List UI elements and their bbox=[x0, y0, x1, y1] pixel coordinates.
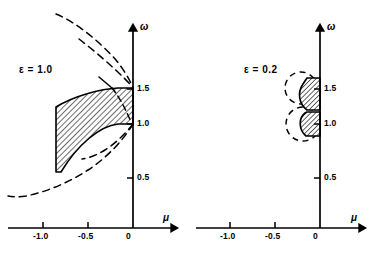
dashed-tick-crossing bbox=[99, 77, 112, 88]
x-tick-label-left-0: -1.0 bbox=[33, 232, 48, 241]
x-axis-label-left: μ bbox=[163, 213, 169, 223]
figure-container: ε = 1.0 μ ω -1.0 -0.5 0 0.5 1.0 1.5 ε = … bbox=[0, 0, 376, 258]
x-tick-label-left-1: -0.5 bbox=[78, 232, 93, 241]
y-axis-label-right: ω bbox=[327, 22, 335, 32]
figure-svg bbox=[0, 0, 376, 258]
y-tick-label-right-2: 1.5 bbox=[324, 84, 336, 93]
y-tick-label-left-1: 1.0 bbox=[137, 119, 149, 128]
y-tick-label-left-0: 0.5 bbox=[137, 173, 149, 182]
epsilon-label-right: ε = 0.2 bbox=[244, 65, 278, 75]
panel-right bbox=[196, 30, 360, 228]
x-tick-label-right-1: -0.5 bbox=[265, 232, 280, 241]
y-tick-label-left-2: 1.5 bbox=[137, 84, 149, 93]
y-axis-label-left: ω bbox=[140, 22, 148, 32]
instability-region-left bbox=[56, 88, 133, 172]
panel-left-instability-region bbox=[56, 88, 133, 172]
epsilon-label-left: ε = 1.0 bbox=[19, 65, 53, 75]
y-tick-label-right-0: 0.5 bbox=[324, 173, 336, 182]
x-tick-label-right-0: -1.0 bbox=[220, 232, 235, 241]
instability-region-right-upper bbox=[300, 78, 320, 110]
x-axis-label-right: μ bbox=[351, 213, 357, 223]
x-tick-label-right-2: 0 bbox=[313, 232, 318, 241]
x-tick-label-left-2: 0 bbox=[126, 232, 131, 241]
y-tick-label-right-1: 1.0 bbox=[324, 119, 336, 128]
dashed-arc-upper-inner bbox=[79, 39, 133, 88]
